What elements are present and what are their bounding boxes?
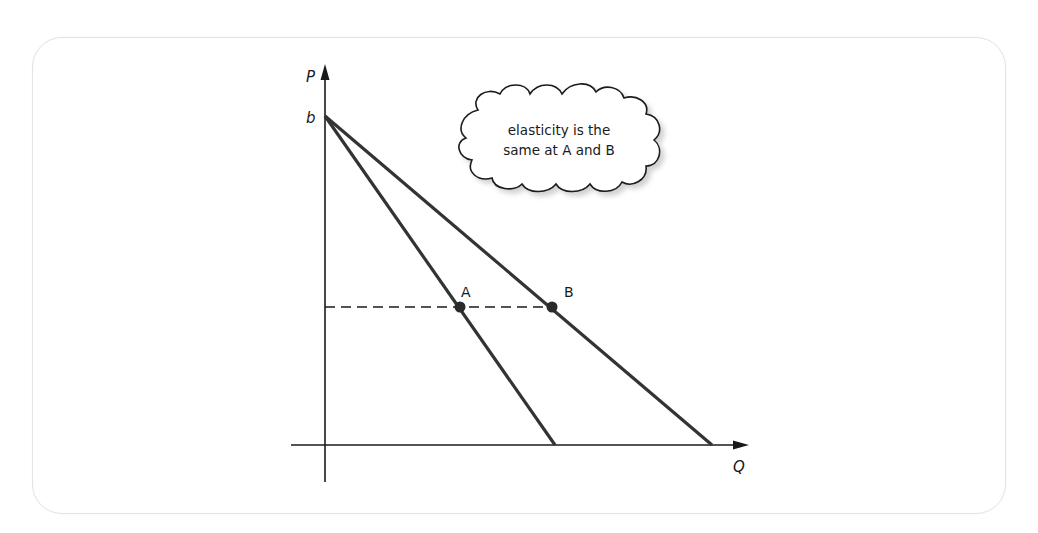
point-b-label: B — [564, 284, 574, 300]
x-axis-arrow-icon — [733, 441, 749, 450]
callout-line-2: same at A and B — [503, 142, 614, 158]
point-a-label: A — [461, 284, 471, 300]
demand-elasticity-diagram: P b Q A B elasticity is the same at A an… — [0, 0, 1038, 533]
point-a-marker — [455, 302, 466, 313]
intercept-label: b — [306, 109, 316, 127]
x-axis-label: Q — [733, 458, 745, 476]
point-b-marker — [547, 302, 558, 313]
y-axis-label: P — [306, 68, 316, 86]
x-axis — [291, 441, 749, 450]
callout-line-1: elasticity is the — [508, 122, 610, 138]
y-axis — [321, 64, 330, 482]
y-axis-arrow-icon — [321, 64, 330, 80]
